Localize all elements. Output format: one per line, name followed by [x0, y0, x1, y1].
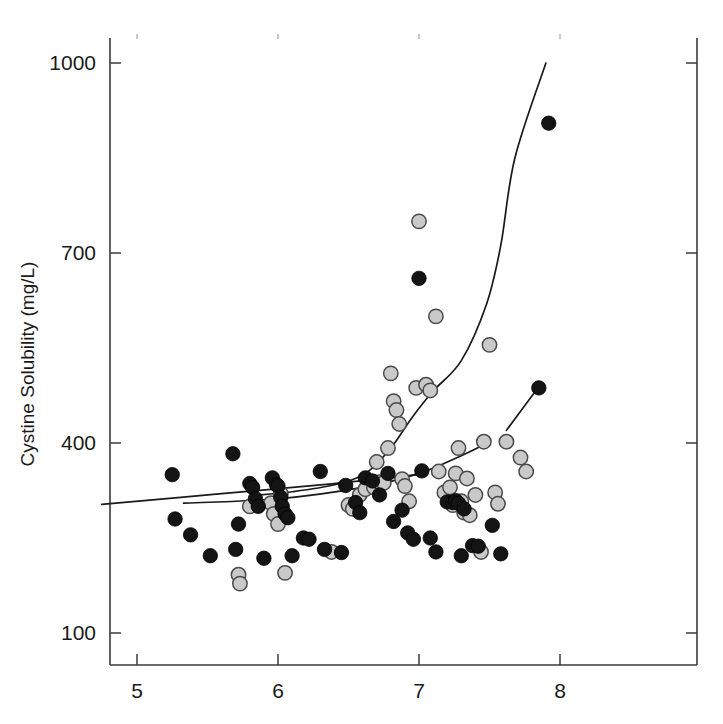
data-point — [491, 497, 505, 511]
data-point — [415, 464, 429, 478]
y-tick-label-100: 100 — [61, 621, 96, 644]
data-point — [542, 116, 556, 130]
data-point — [482, 338, 496, 352]
data-point — [423, 383, 437, 397]
data-point — [389, 403, 403, 417]
data-point — [313, 464, 327, 478]
data-point — [317, 542, 331, 556]
data-point — [226, 447, 240, 461]
data-point — [513, 450, 527, 464]
data-point — [412, 214, 426, 228]
data-point — [451, 441, 465, 455]
data-point — [398, 479, 412, 493]
data-point — [381, 466, 395, 480]
data-point — [429, 309, 443, 323]
data-point — [229, 542, 243, 556]
data-point — [485, 518, 499, 532]
data-point — [281, 511, 295, 525]
data-point — [412, 271, 426, 285]
data-point — [251, 499, 265, 513]
data-point — [423, 531, 437, 545]
data-point — [392, 417, 406, 431]
data-point — [468, 488, 482, 502]
x-tick-label-5: 5 — [131, 679, 143, 702]
data-point — [233, 576, 247, 590]
data-point — [406, 532, 420, 546]
data-point — [395, 503, 409, 517]
data-point — [494, 547, 508, 561]
data-point — [532, 381, 546, 395]
plot-background — [0, 0, 723, 724]
x-tick-label-6: 6 — [272, 679, 284, 702]
x-tick-label-8: 8 — [554, 679, 566, 702]
x-tick-label-7: 7 — [413, 679, 425, 702]
data-point — [231, 517, 245, 531]
data-point — [443, 480, 457, 494]
data-point — [477, 435, 491, 449]
data-point — [432, 464, 446, 478]
data-point — [471, 539, 485, 553]
scatter-plot: 10040070010005678 Cystine Solubility (mg… — [0, 0, 723, 724]
data-point — [519, 464, 533, 478]
data-point — [370, 455, 384, 469]
data-point — [384, 366, 398, 380]
data-point — [257, 551, 271, 565]
data-point — [454, 549, 468, 563]
data-point — [457, 502, 471, 516]
data-point — [285, 549, 299, 563]
data-point — [372, 488, 386, 502]
data-point — [183, 528, 197, 542]
data-point — [353, 505, 367, 519]
y-tick-label-700: 700 — [61, 241, 96, 264]
data-point — [168, 512, 182, 526]
data-point — [203, 549, 217, 563]
data-point — [381, 441, 395, 455]
y-axis-title: Cystine Solubility (mg/L) — [17, 262, 38, 467]
y-tick-label-400: 400 — [61, 431, 96, 454]
data-point — [165, 467, 179, 481]
data-point — [460, 471, 474, 485]
data-point — [302, 532, 316, 546]
y-tick-label-1000: 1000 — [49, 51, 96, 74]
data-point — [334, 545, 348, 559]
data-point — [338, 478, 352, 492]
data-point — [499, 435, 513, 449]
data-point — [365, 474, 379, 488]
figure-container: 10040070010005678 Cystine Solubility (mg… — [0, 0, 723, 724]
data-point — [278, 566, 292, 580]
data-point — [429, 545, 443, 559]
